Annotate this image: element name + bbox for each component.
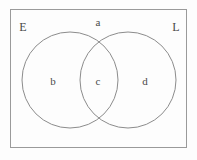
- region-label-d: d: [142, 76, 148, 87]
- set-label-l: L: [172, 21, 180, 33]
- region-label-b: b: [50, 76, 56, 87]
- venn-diagram-canvas: E L a b c d: [0, 0, 197, 160]
- region-label-a: a: [95, 17, 100, 28]
- set-label-e: E: [19, 21, 27, 33]
- region-label-c: c: [95, 76, 100, 87]
